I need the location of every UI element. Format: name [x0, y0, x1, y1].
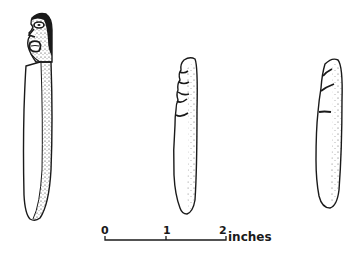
artifact-2-notch-3 — [178, 92, 189, 95]
scale-tick-2: 2 — [219, 224, 227, 237]
artifact-3-notch-3 — [319, 112, 331, 113]
artifact-2-notch-2 — [179, 82, 189, 84]
artifact-3 — [316, 59, 343, 208]
artifact-3-notch-1 — [323, 69, 332, 76]
artifact-3-notch-2 — [321, 84, 334, 91]
artifact-2-notch-1 — [180, 71, 188, 73]
scale-tick-0: 0 — [101, 224, 109, 237]
artifact-2 — [174, 58, 198, 214]
artifact-1-lip-line — [31, 46, 39, 47]
scale-tick-1: 1 — [163, 224, 171, 237]
artifact-illustration: 0 1 2 inches — [0, 0, 362, 262]
artifact-1-pupil — [37, 24, 40, 26]
artifact-1-nose — [29, 29, 35, 37]
artifact-1 — [24, 14, 53, 221]
scale-units-label: inches — [228, 230, 272, 244]
artifact-2-notch-5 — [176, 113, 188, 116]
scale-bar: 0 1 2 inches — [101, 224, 272, 244]
